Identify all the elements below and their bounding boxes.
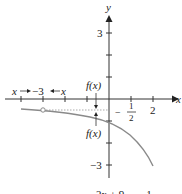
limit-annotation-x: x −3 x (11, 85, 66, 97)
x-axis-label: x (175, 93, 181, 105)
svg-text:1: 1 (129, 101, 134, 111)
y-tick-label-3: 3 (97, 27, 103, 39)
x-tick-label-neg-half: − 1 2 (115, 101, 136, 123)
svg-text:−: − (115, 107, 121, 118)
svg-text:2: 2 (129, 113, 134, 123)
caption-partial: 2x + 9 1 (96, 188, 152, 194)
svg-text:x: x (60, 85, 66, 97)
svg-text:x: x (11, 85, 17, 97)
y-axis-arrow-icon (106, 15, 113, 22)
up-arrow-icon (94, 112, 98, 116)
down-arrow-icon (94, 105, 98, 109)
x-tick-label-2: 2 (150, 104, 156, 116)
fx-label-bottom: f(x) (86, 127, 102, 140)
open-point-marker (41, 108, 45, 112)
right-arrow-icon (27, 89, 31, 93)
fx-label-top: f(x) (86, 79, 102, 92)
y-axis-label: y (105, 1, 111, 13)
y-tick-label-neg3: −3 (90, 159, 102, 171)
graph-figure: x y 3 −3 2 − 1 2 x −3 (0, 0, 182, 194)
svg-text:−3: −3 (32, 85, 44, 97)
